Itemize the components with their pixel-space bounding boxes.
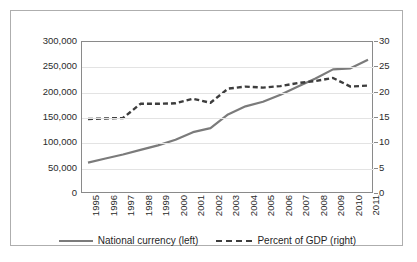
y-axis-right-tick-label: 25 bbox=[379, 61, 407, 71]
y-axis-left-tick-label: 50,000 bbox=[17, 163, 77, 173]
y-axis-right-tick-label: 30 bbox=[379, 36, 407, 46]
y-axis-right-tick-label: 10 bbox=[379, 137, 407, 147]
gridline bbox=[82, 143, 374, 144]
y-axis-right-tick bbox=[374, 41, 378, 42]
plot-area bbox=[81, 41, 373, 193]
y-axis-right-tick bbox=[374, 92, 378, 93]
chart-container: 050,000100,000150,000200,000250,000300,0… bbox=[10, 10, 403, 246]
chart-legend: National currency (left) Percent of GDP … bbox=[11, 233, 404, 249]
y-axis-right-tick-label: 15 bbox=[379, 112, 407, 122]
legend-label-percent-of-gdp: Percent of GDP (right) bbox=[257, 236, 356, 246]
y-axis-right-tick-label: 0 bbox=[379, 188, 407, 198]
y-axis-left-tick-label: 250,000 bbox=[17, 61, 77, 71]
legend-item-national-currency: National currency (left) bbox=[59, 236, 199, 246]
y-axis-left-tick-label: 150,000 bbox=[17, 112, 77, 122]
y-axis-left-tick-label: 200,000 bbox=[17, 87, 77, 97]
gridline bbox=[82, 169, 374, 170]
y-axis-right-tick bbox=[374, 168, 378, 169]
y-axis-right-tick-label: 5 bbox=[379, 163, 407, 173]
y-axis-right-tick bbox=[374, 66, 378, 67]
series-line bbox=[88, 78, 368, 119]
y-axis-left: 050,000100,000150,000200,000250,000300,0… bbox=[13, 41, 77, 193]
y-axis-right-tick-label: 20 bbox=[379, 87, 407, 97]
y-axis-left-tick-label: 0 bbox=[17, 188, 77, 198]
y-axis-left-tick-label: 300,000 bbox=[17, 36, 77, 46]
y-axis-right: 051015202530 bbox=[379, 41, 409, 193]
y-axis-right-tick bbox=[374, 142, 378, 143]
y-axis-right-tick bbox=[374, 193, 378, 194]
y-axis-right-tick bbox=[374, 117, 378, 118]
gridline bbox=[82, 67, 374, 68]
legend-item-percent-of-gdp: Percent of GDP (right) bbox=[216, 236, 356, 246]
legend-label-national-currency: National currency (left) bbox=[98, 236, 199, 246]
gridline bbox=[82, 93, 374, 94]
legend-swatch-dashed-line-icon bbox=[216, 240, 252, 242]
y-axis-left-tick-label: 100,000 bbox=[17, 137, 77, 147]
gridline bbox=[82, 118, 374, 119]
legend-swatch-solid-line-icon bbox=[59, 240, 93, 242]
